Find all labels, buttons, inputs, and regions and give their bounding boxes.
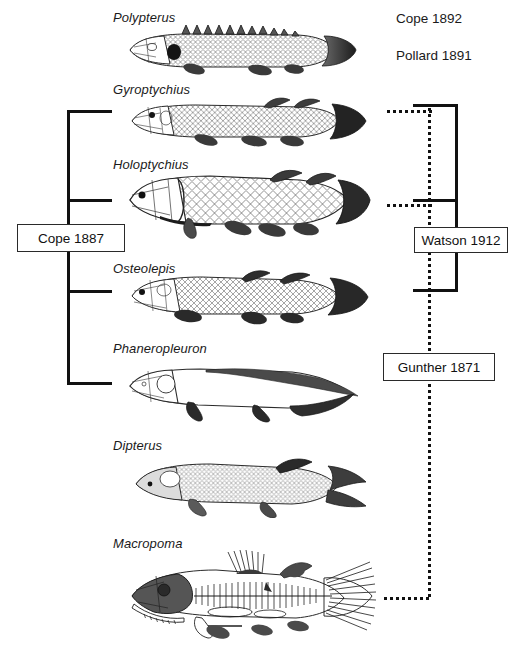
clade-dotted-branch-gyroptychius [387,110,432,113]
clade-right-branch-middle [413,199,458,202]
fish-illustration-dipterus [130,456,370,518]
fish-illustration-osteolepis [122,270,370,328]
clade-left-branch-osteolepis [67,290,112,293]
fish-illustration-phaneropleuron [122,358,372,426]
clade-left-branch-phaneropleuron [67,382,112,385]
citation-pollard-1891: Pollard 1891 [396,48,472,63]
fish-illustration-polypterus [118,22,358,78]
node-box-cope-1887[interactable]: Cope 1887 [17,224,125,252]
clade-dotted-branch-holoptychius [387,204,432,207]
fish-illustration-gyroptychius [124,96,368,148]
node-box-gunther-1871[interactable]: Gunther 1871 [383,353,495,381]
clade-right-branch-bottom [413,289,458,292]
fish-illustration-holoptychius [120,168,372,240]
taxon-label-gyroptychius: Gyroptychius [113,82,190,97]
node-box-watson-1912[interactable]: Watson 1912 [414,227,508,253]
cladogram-figure: Polypterus Gyroptychius Holoptychius Ost… [0,0,524,651]
citation-cope-1892: Cope 1892 [396,11,462,26]
taxon-label-phaneropleuron: Phaneropleuron [113,341,207,356]
clade-left-branch-gyroptychius [67,110,112,113]
taxon-label-dipterus: Dipterus [113,438,162,453]
clade-left-branch-holoptychius [67,199,112,202]
clade-right-branch-top [413,104,458,107]
fish-illustration-macropoma [120,546,382,642]
clade-dotted-branch-macropoma [384,597,432,600]
